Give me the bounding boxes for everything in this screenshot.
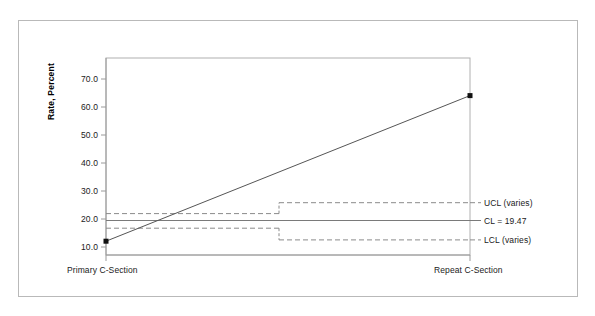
y-tick-label-60: 60.0 [58, 102, 98, 112]
control-chart: Rate, Percent 70.0 60.0 50.0 40.0 30.0 2… [0, 0, 595, 316]
x-axis-ticks [106, 255, 470, 261]
data-point-repeat[interactable] [468, 93, 473, 98]
y-tick-label-10: 10.0 [58, 242, 98, 252]
y-axis-title: Rate, Percent [46, 106, 56, 120]
ucl-label: UCL (varies) [484, 198, 533, 208]
y-tick-label-50: 50.0 [58, 130, 98, 140]
y-tick-label-20: 20.0 [58, 214, 98, 224]
x-category-label-repeat: Repeat C-Section [434, 265, 503, 275]
lcl-line [106, 228, 481, 240]
lcl-label: LCL (varies) [484, 235, 531, 245]
x-category-label-primary: Primary C-Section [67, 265, 138, 275]
y-axis-ticks [101, 79, 106, 247]
y-tick-label-30: 30.0 [58, 186, 98, 196]
ucl-line [106, 203, 481, 214]
cl-label: CL = 19.47 [484, 216, 527, 226]
data-point-primary[interactable] [104, 239, 109, 244]
series-line-segment [106, 96, 470, 242]
y-tick-label-40: 40.0 [58, 158, 98, 168]
y-tick-label-70: 70.0 [58, 74, 98, 84]
plot-area-border [106, 58, 470, 255]
data-series-rate [104, 93, 473, 244]
